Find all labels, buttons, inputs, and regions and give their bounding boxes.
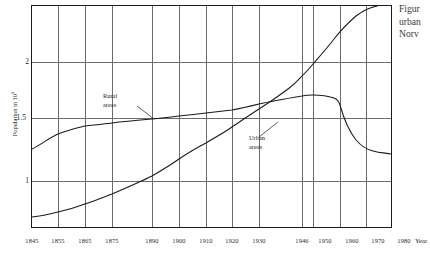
x-tick-label: 1910 (199, 237, 212, 244)
caption-line-1: Figur (399, 3, 430, 16)
caption-line-3: Norv (399, 28, 430, 41)
x-tick-label: 1960 (345, 237, 358, 244)
y-axis-title-exponent: 6 (10, 92, 15, 94)
y-tick-label: 1 (9, 176, 29, 185)
x-tick-label: 1920 (225, 237, 238, 244)
x-axis-title: Year (415, 237, 427, 244)
curve-urban-areas (32, 6, 391, 217)
series-curves (32, 6, 391, 227)
x-tick-label: 1970 (371, 237, 384, 244)
leader-line-rural (137, 106, 154, 119)
figure-caption: Figur urban Norv (399, 3, 430, 41)
series-label-urban-areas: Urban areas (249, 134, 265, 151)
y-tick-label: 2 (9, 57, 29, 66)
curve-rural-areas (32, 95, 391, 154)
caption-line-2: urban (399, 16, 430, 29)
series-label-urban-line-2: areas (249, 143, 265, 152)
x-tick-label: 1855 (51, 237, 64, 244)
series-label-rural-areas: Rural areas (103, 92, 117, 109)
y-tick-label: 1.5 (6, 113, 26, 122)
series-label-rural-line-1: Rural (103, 92, 117, 101)
figure-population-norway: Figur urban Norv Population in 106 (0, 0, 430, 259)
plot-area: Rural areas Urban areas (31, 5, 392, 228)
x-tick-label: 1900 (172, 237, 185, 244)
x-tick-label: 1865 (78, 237, 91, 244)
x-tick-label: 1980 (397, 237, 410, 244)
x-tick-label: 1875 (105, 237, 118, 244)
series-label-urban-line-1: Urban (249, 134, 265, 143)
series-label-rural-line-2: areas (103, 101, 117, 110)
x-tick-label: 1930 (252, 237, 265, 244)
x-tick-label: 1845 (25, 237, 38, 244)
x-tick-label: 1950 (318, 237, 331, 244)
x-tick-label: 1946 (295, 237, 308, 244)
x-tick-label: 1890 (145, 237, 158, 244)
